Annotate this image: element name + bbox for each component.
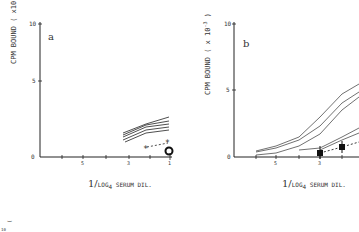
panel-b-ylabel: CPM BOUND ( x 10-3 ) (202, 13, 212, 95)
panel-b-ytick-10: 10 (224, 20, 232, 27)
panel-b: CPM BOUND ( x 10-3 ) 10 5 0 5 3 b (202, 13, 359, 190)
panel-a-ylabel: CPM BOUND ( x10-3 ) (8, 0, 18, 64)
svg-text:): ) (7, 220, 13, 223)
panel-b-xtick-5: 5 (274, 160, 277, 166)
panel-a-label: a (48, 31, 54, 42)
panel-a-ytick-5: 5 (32, 77, 36, 84)
panel-a-xtick-1: 1 (168, 160, 171, 166)
panel-b-xlabel: 1/LOG4 SERUM DIL. (282, 178, 346, 190)
panel-c-partial: ) 10 (1, 220, 13, 232)
svg-text:10: 10 (1, 227, 6, 232)
panel-a-series (123, 117, 169, 142)
panel-a-xtick-3: 3 (127, 160, 130, 166)
panel-b-ytick-0: 0 (227, 153, 231, 160)
panel-b-xtick-3: 3 (318, 160, 321, 166)
panel-b-label: b (243, 38, 249, 49)
asterisk-marker: * (143, 144, 148, 154)
figure-canvas: CPM BOUND ( x10-3 ) 10 5 0 5 3 1 a * (0, 0, 359, 232)
panel-a: CPM BOUND ( x10-3 ) 10 5 0 5 3 1 a * (8, 0, 173, 190)
panel-a-ytick-0: 0 (31, 153, 35, 160)
panel-a-xlabel: 1/LOG4 SERUM DIL. (88, 178, 152, 190)
panel-a-xtick-5: 5 (81, 160, 84, 166)
panel-a-ytick-10: 10 (29, 20, 37, 27)
circle-marker (166, 148, 173, 155)
panel-b-ytick-5: 5 (226, 86, 230, 93)
error-bar-markers (317, 141, 345, 159)
